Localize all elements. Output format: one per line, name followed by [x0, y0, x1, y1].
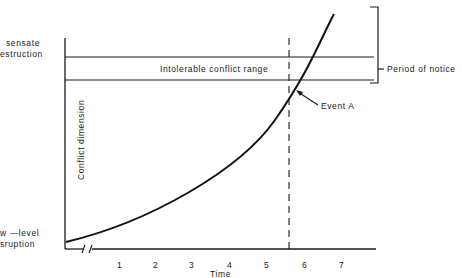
period-bracket [370, 7, 378, 83]
y-axis-label: Conflict dimension [76, 100, 86, 180]
bracket-label: Period of notice [387, 64, 456, 74]
x-tick-7: 7 [339, 260, 344, 270]
diagram-canvas [0, 0, 462, 278]
band-label: Intolerable conflict range [160, 64, 268, 74]
x-tick-3: 3 [189, 260, 194, 270]
x-tick-2: 2 [153, 260, 158, 270]
bottom-level-label-1: w —level [0, 228, 39, 238]
x-axis-label: Time [210, 269, 231, 278]
x-tick-5: 5 [264, 260, 269, 270]
conflict-curve [66, 14, 334, 242]
axis-break-icon [89, 245, 92, 253]
x-tick-6: 6 [302, 260, 307, 270]
event-label: Event A [321, 101, 355, 111]
top-level-label-2: estruction [0, 49, 43, 59]
bottom-level-label-2: sruption [0, 239, 35, 249]
top-level-label-1: sensate [6, 38, 40, 48]
x-tick-1: 1 [117, 260, 122, 270]
